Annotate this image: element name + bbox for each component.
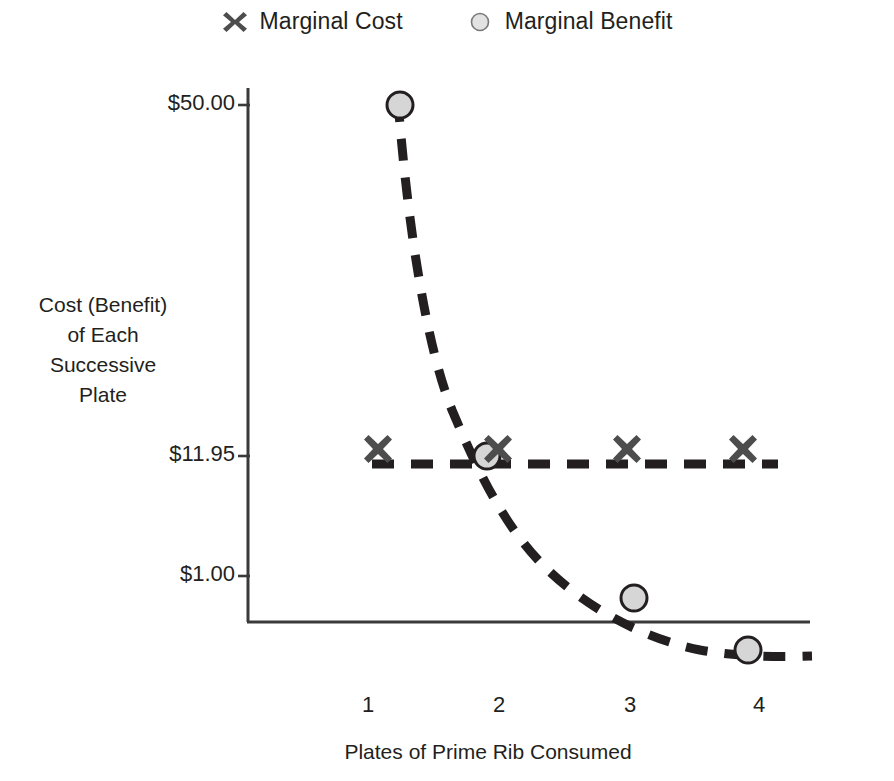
- data-point-cost-1: [364, 435, 392, 463]
- data-point-cost-4: [729, 435, 757, 463]
- chart-container: Marginal Cost Marginal Benefit Cost (Ben…: [0, 0, 894, 781]
- data-point-cost-3: [613, 435, 641, 463]
- data-point-benefit-4: [735, 637, 761, 663]
- marginal-cost-markers: [364, 435, 757, 463]
- axis-lines: [247, 88, 810, 622]
- data-point-benefit-1: [387, 92, 413, 118]
- plot-area: [0, 0, 894, 781]
- data-point-benefit-3: [621, 585, 647, 611]
- marginal-benefit-curve: [398, 100, 812, 656]
